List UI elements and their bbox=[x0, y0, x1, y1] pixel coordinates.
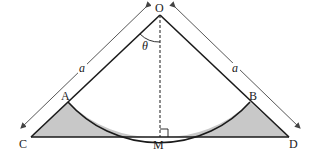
label-M: M bbox=[153, 138, 164, 152]
label-side-a-left: a bbox=[79, 61, 85, 75]
label-theta: θ bbox=[142, 39, 148, 53]
label-B: B bbox=[249, 89, 257, 103]
label-side-a-right: a bbox=[232, 61, 238, 75]
side-OD bbox=[160, 15, 289, 137]
label-A: A bbox=[61, 89, 70, 103]
label-C: C bbox=[19, 137, 27, 151]
label-D: D bbox=[289, 137, 298, 151]
label-O: O bbox=[155, 1, 164, 15]
right-angle-mark bbox=[160, 129, 168, 137]
geometry-diagram: O A B C D M θ a a bbox=[0, 0, 316, 155]
side-OC bbox=[31, 15, 160, 137]
